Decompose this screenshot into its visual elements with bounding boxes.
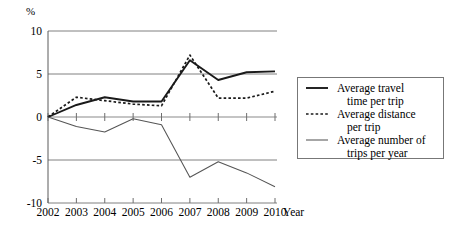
y-axis-unit-label: % [26, 5, 35, 17]
legend-label-line2: per trip [347, 121, 381, 134]
x-tick-labels: 200220032004200520062007200820092010 [37, 206, 287, 218]
legend-label-line2: trips per year [347, 147, 408, 160]
chart-legend: Average traveltime per tripAverage dista… [298, 78, 444, 161]
legend-label-line1: Average number of [337, 134, 426, 147]
x-tick-label: 2008 [207, 206, 230, 218]
legend-label-line1: Average travel [337, 82, 404, 95]
line-chart: 1050-5-10 200220032004200520062007200820… [0, 0, 451, 231]
y-tick-label: -5 [32, 154, 42, 166]
x-tick-label: 2009 [235, 206, 258, 218]
x-tick-label: 2007 [178, 206, 201, 218]
x-tick-label: 2006 [150, 206, 173, 218]
x-tick-label: 2004 [93, 206, 116, 218]
y-tick-label: 10 [31, 25, 43, 37]
x-tick-label: 2002 [37, 206, 60, 218]
x-tick-label: 2003 [65, 206, 88, 218]
x-axis-title: Year [283, 206, 304, 218]
legend-label-line2: time per trip [347, 95, 404, 108]
y-tick-label: 0 [36, 111, 42, 123]
x-tick-label: 2005 [122, 206, 145, 218]
chart-container: 1050-5-10 200220032004200520062007200820… [0, 0, 451, 231]
y-tick-label: 5 [36, 68, 42, 80]
legend-label-line1: Average distance [337, 108, 416, 121]
